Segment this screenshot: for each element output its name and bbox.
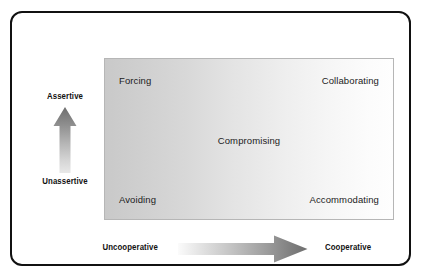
vertical-axis-high-label: Assertive [47,91,83,101]
conflict-matrix-box: Forcing Collaborating Compromising Avoid… [104,58,394,220]
quadrant-label-forcing: Forcing [119,75,151,86]
horizontal-axis-high-label: Cooperative [325,242,371,252]
diagram-outer-frame: Assertive Unassertive Forcing Collaborat… [10,11,411,266]
cooperativeness-right-arrow-icon [178,235,308,263]
quadrant-label-compromising: Compromising [218,135,280,146]
conflict-styles-diagram: Assertive Unassertive Forcing Collaborat… [0,0,423,279]
assertiveness-up-arrow-icon [53,107,77,173]
quadrant-label-collaborating: Collaborating [322,75,379,86]
vertical-axis-low-label: Unassertive [42,176,87,186]
quadrant-label-avoiding: Avoiding [119,194,156,205]
quadrant-label-accommodating: Accommodating [310,194,379,205]
horizontal-axis-low-label: Uncooperative [102,242,158,252]
